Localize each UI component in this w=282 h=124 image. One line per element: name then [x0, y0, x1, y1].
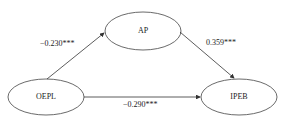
node-label-ap: AP — [113, 26, 173, 35]
edge-label-oepl-ap: −0.230*** — [40, 39, 75, 48]
edge-label-oepl-ipeb: −0.290*** — [123, 100, 158, 109]
edge-label-ap-ipeb: 0.359*** — [206, 38, 236, 47]
node-label-ipeb: IPEB — [209, 92, 269, 101]
node-label-oepl: OEPL — [16, 92, 76, 101]
